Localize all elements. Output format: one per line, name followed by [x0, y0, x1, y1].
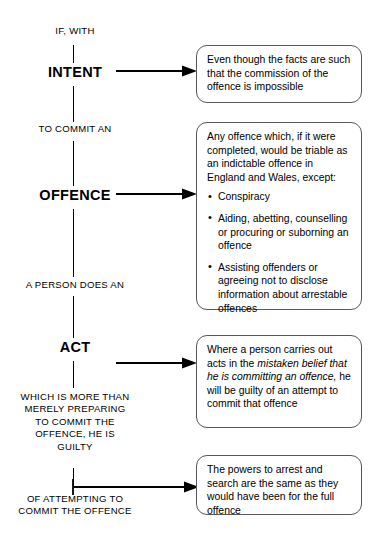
arrow-offence-to-note: [116, 187, 198, 201]
flow-spine: IF, WITH INTENT TO COMMIT AN OFFENCE A P…: [0, 0, 150, 554]
callout-powers-note: The powers to arrest and search are the …: [196, 455, 362, 515]
spine-intro-label: IF, WITH: [0, 25, 150, 37]
arrow-intent-to-note: [116, 64, 198, 78]
list-item: Assisting offenders or agreeing not to d…: [207, 261, 352, 315]
spine-connector-to-commit-an: TO COMMIT AN: [0, 123, 150, 135]
spine-segment-1: [73, 45, 74, 63]
callout-offence-note: Any offence which, if it were completed,…: [196, 122, 362, 310]
arrow-guilty-to-powers-note: [68, 477, 200, 497]
list-item: Conspiracy: [207, 190, 352, 204]
callout-offence-lead: Any offence which, if it were completed,…: [207, 130, 352, 184]
spine-segment-4: [73, 209, 74, 277]
arrow-act-to-note: [116, 356, 198, 370]
list-item: Aiding, abetting, counselling or procuri…: [207, 212, 352, 253]
callout-act-text: Where a person carries out acts in the m…: [207, 343, 352, 411]
spine-segment-5: [73, 296, 74, 338]
spine-segment-3: [73, 141, 74, 186]
attempt-offence-flow-diagram: IF, WITH INTENT TO COMMIT AN OFFENCE A P…: [0, 0, 375, 554]
callout-offence-exceptions-list: Conspiracy Aiding, abetting, counselling…: [207, 190, 352, 315]
callout-intent-note: Even though the facts are such that the …: [196, 45, 362, 103]
stage-act: ACT: [0, 340, 150, 355]
spine-connector-a-person-does-an: A PERSON DOES AN: [0, 279, 150, 291]
spine-connector-which-is-more-than: WHICH IS MORE THAN MERELY PREPARING TO C…: [0, 391, 150, 453]
callout-powers-text: The powers to arrest and search are the …: [207, 463, 352, 517]
callout-intent-text: Even though the facts are such that the …: [207, 53, 352, 94]
spine-segment-2: [73, 86, 74, 122]
callout-act-note: Where a person carries out acts in the m…: [196, 335, 362, 428]
spine-segment-6: [73, 361, 74, 388]
